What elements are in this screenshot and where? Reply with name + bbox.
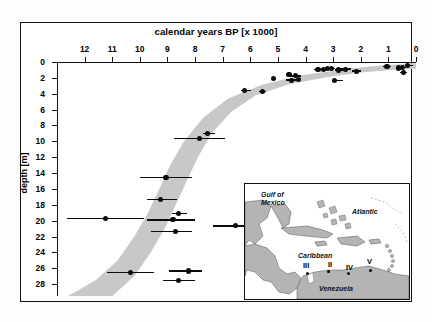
x-tick-label: 10 — [135, 44, 144, 54]
map-site-label: IV — [346, 263, 353, 272]
x-tick-mark — [416, 57, 417, 62]
map-site-label: V — [367, 257, 372, 266]
data-point-marker — [128, 270, 133, 275]
y-tick-label: 14 — [36, 168, 45, 178]
y-tick-label: 0 — [40, 57, 45, 67]
x-tick-label: 7 — [220, 44, 225, 54]
map-site-label: III — [303, 261, 309, 270]
x-axis-line — [57, 62, 416, 63]
y-tick-label: 6 — [40, 105, 45, 115]
x-axis-title: calendar years BP [x 1000] — [0, 26, 432, 37]
y-tick-label: 20 — [36, 216, 45, 226]
map-region-label: Caribbean — [298, 252, 332, 260]
x-tick-label: 11 — [108, 44, 117, 54]
y-axis-line — [57, 62, 58, 296]
x-tick-label: 0 — [414, 44, 419, 54]
data-point-marker — [186, 268, 191, 273]
map-region-label: Venezuela — [319, 285, 353, 293]
y-tick-label: 10 — [36, 136, 45, 146]
data-point-marker — [354, 69, 359, 74]
y-tick-label: 18 — [36, 200, 45, 210]
x-tick-label: 6 — [248, 44, 253, 54]
y-tick-label: 8 — [40, 120, 45, 130]
map-site-label: II — [328, 260, 332, 269]
y-tick-label: 28 — [36, 279, 45, 289]
error-bar — [151, 231, 192, 233]
inset-map-caribbean: Gulf ofMexicoAtlanticCaribbeanVenezuela … — [244, 183, 410, 300]
data-point-marker — [163, 175, 168, 180]
x-tick-label: 12 — [80, 44, 89, 54]
x-tick-label: 1 — [386, 44, 391, 54]
y-tick-label: 12 — [36, 152, 45, 162]
figure-root: calendar years BP [x 1000] depth [m] 121… — [0, 0, 432, 322]
y-tick-label: 26 — [36, 263, 45, 273]
y-tick-label: 24 — [36, 247, 45, 257]
x-tick-label: 4 — [303, 44, 308, 54]
x-tick-label: 5 — [276, 44, 281, 54]
data-point-marker — [103, 216, 108, 221]
data-point-marker — [197, 136, 202, 141]
map-region-label: Mexico — [261, 199, 285, 207]
y-tick-label: 22 — [36, 232, 45, 242]
x-tick-label: 3 — [331, 44, 336, 54]
data-point-marker — [384, 64, 389, 69]
x-tick-label: 8 — [193, 44, 198, 54]
data-point-marker — [343, 67, 348, 72]
y-axis-title: depth [m] — [19, 143, 29, 203]
y-tick-label: 4 — [40, 89, 45, 99]
map-region-label: Atlantic — [352, 208, 378, 216]
x-tick-label: 2 — [358, 44, 363, 54]
map-region-label: Gulf of — [261, 191, 284, 199]
y-tick-label: 2 — [40, 73, 45, 83]
y-tick-label: 16 — [36, 184, 45, 194]
x-tick-label: 9 — [165, 44, 170, 54]
data-point-marker — [205, 131, 210, 136]
